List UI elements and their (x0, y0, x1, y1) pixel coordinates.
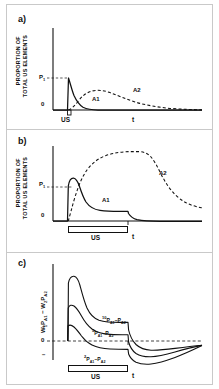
panel-c-label-ratio-2: 2PA1−PA2 (84, 354, 105, 364)
panel-b-us-bar (68, 226, 128, 233)
panel-c-label-ratio-10: 10PA1 - PA210PA1−PA2 (102, 315, 126, 325)
panel-a-xlabel-t: t (132, 116, 134, 123)
panel-b-xlabel-us: US (91, 234, 100, 241)
figure-root: a) PROPORTION OFTOTAL US ELEMENTS P1 0 A… (0, 0, 219, 389)
panel-c-label-ratio-5: 5PA1−PA2 (92, 328, 113, 338)
panel-a-plot (6, 4, 213, 129)
panel-b: b) PROPORTION OFTOTAL US ELEMENTS P1 0 A… (6, 129, 213, 252)
panel-b-plot (6, 129, 213, 252)
panel-b-label-a2: A2 (159, 170, 167, 176)
panel-c-xlabel-us: US (91, 373, 100, 380)
panel-a: a) PROPORTION OFTOTAL US ELEMENTS P1 0 A… (6, 4, 213, 129)
panel-c: c) W1PA1 − W2PA2 + 0 − 10PA1 - PA210PA1−… (6, 252, 213, 385)
panel-a-label-a2: A2 (133, 87, 141, 93)
panel-b-xlabel-t: t (132, 233, 134, 240)
panel-a-xlabel-us: US (61, 116, 70, 123)
panel-c-us-bar (68, 365, 128, 372)
panel-c-xlabel-t: t (132, 372, 134, 379)
panel-b-label-a1: A1 (102, 197, 110, 203)
panel-a-label-a1: A1 (92, 96, 100, 102)
